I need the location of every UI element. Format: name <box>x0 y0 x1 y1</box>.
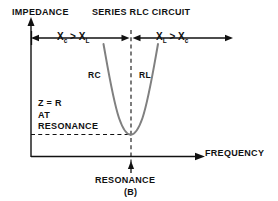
resonance-note: Z = R AT RESONANCE <box>38 98 98 133</box>
rc-branch-curve <box>104 44 131 135</box>
rc-branch-label: RC <box>88 70 101 80</box>
resonance-note-line-3: RESONANCE <box>38 121 98 133</box>
resonance-note-line-2: AT <box>38 110 98 122</box>
resonance-axis-marker-label: RESONANCE <box>95 175 155 185</box>
right-operator: > <box>169 31 175 42</box>
figure-title: SERIES RLC CIRCUIT <box>92 7 190 17</box>
left-operator: > <box>70 31 76 42</box>
right-region-inequality-label: XL > Xc <box>156 31 188 42</box>
right-sub-1: L <box>163 37 167 44</box>
y-axis-arrowhead <box>28 17 35 26</box>
resonance-note-line-1: Z = R <box>38 98 98 110</box>
resonance-axis-arrow <box>128 161 134 173</box>
left-region-inequality-label: Xc > XL <box>57 31 89 42</box>
panel-identifier: (B) <box>124 187 137 197</box>
impedance-vs-frequency-figure: IMPEDANCE SERIES RLC CIRCUIT Xc > XL XL … <box>0 0 278 201</box>
left-sub-2: L <box>85 37 89 44</box>
y-axis-label: IMPEDANCE <box>12 7 69 17</box>
right-sub-2: c <box>185 37 189 44</box>
rl-branch-curve <box>131 44 158 135</box>
left-var-1: X <box>57 31 64 42</box>
right-var-1: X <box>156 31 163 42</box>
x-axis <box>31 153 205 160</box>
rl-branch-label: RL <box>139 70 151 80</box>
x-axis-arrowhead <box>195 153 205 160</box>
left-sub-1: c <box>64 37 68 44</box>
right-var-2: X <box>178 31 185 42</box>
x-axis-label: FREQUENCY <box>205 148 264 158</box>
